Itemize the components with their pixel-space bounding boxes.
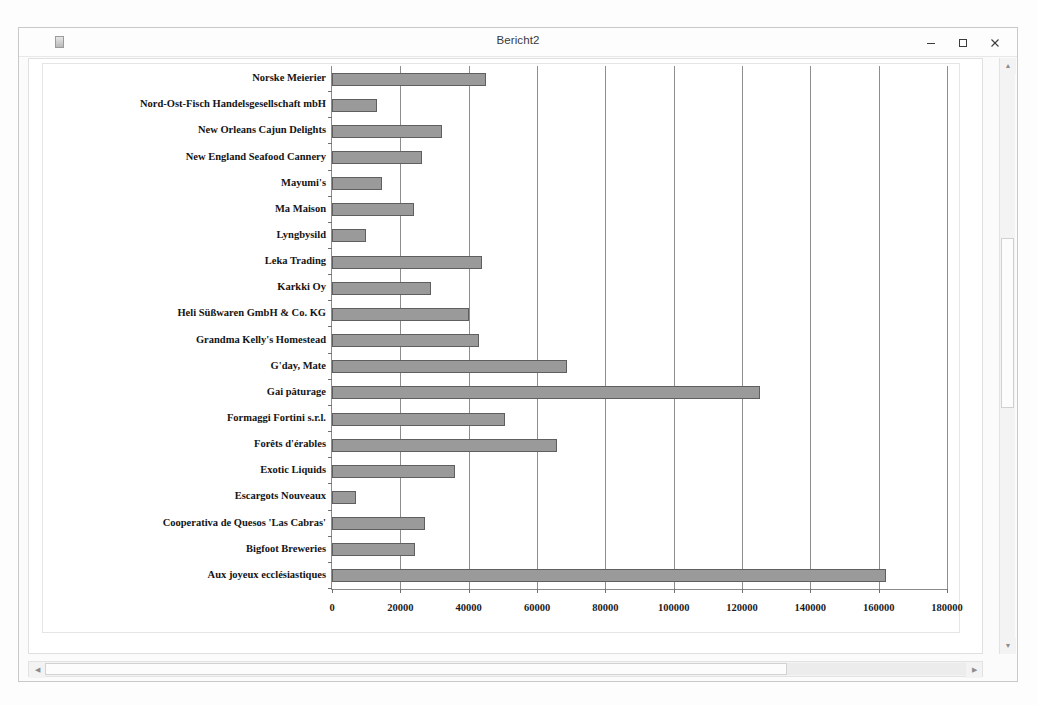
report-surface: 0200004000060000800001000001200001400001…: [28, 58, 983, 654]
chart-bar[interactable]: [332, 360, 567, 373]
chart-bar[interactable]: [332, 73, 486, 86]
chart-category-row: Ma Maison: [332, 197, 947, 223]
y-axis-tick: [328, 588, 332, 589]
x-axis-tick-label: 80000: [592, 602, 618, 613]
chart-bar[interactable]: [332, 125, 442, 138]
chart-category-row: Karkki Oy: [332, 275, 947, 301]
chart-category-row: Exotic Liquids: [332, 458, 947, 484]
gridline: [947, 66, 948, 589]
y-axis-category-label: Escargots Nouveaux: [235, 490, 326, 501]
chart-category-row: Cooperativa de Quesos 'Las Cabras': [332, 511, 947, 537]
close-icon[interactable]: [979, 30, 1011, 56]
chart-category-row: Escargots Nouveaux: [332, 484, 947, 510]
maximize-icon[interactable]: [947, 30, 979, 56]
chart-category-row: Bigfoot Breweries: [332, 537, 947, 563]
x-axis-tick-label: 140000: [795, 602, 827, 613]
x-axis-tick: [332, 589, 333, 593]
chart-category-row: Nord-Ost-Fisch Handelsgesellschaft mbH: [332, 92, 947, 118]
x-axis-tick-label: 180000: [931, 602, 963, 613]
x-axis-tick: [810, 589, 811, 593]
x-axis-tick: [469, 589, 470, 593]
y-axis-category-label: Cooperativa de Quesos 'Las Cabras': [163, 517, 326, 528]
y-axis-category-label: Exotic Liquids: [260, 464, 326, 475]
chart-category-row: Lyngbysild: [332, 223, 947, 249]
chart-bar[interactable]: [332, 229, 366, 242]
chart-category-row: Heli Süßwaren GmbH & Co. KG: [332, 301, 947, 327]
y-axis-category-label: Grandma Kelly's Homestead: [196, 334, 326, 345]
minimize-icon[interactable]: [915, 30, 947, 56]
x-axis-tick-label: 60000: [524, 602, 550, 613]
chart-bar[interactable]: [332, 491, 356, 504]
horizontal-scrollbar[interactable]: ◀ ▶: [28, 661, 983, 677]
vertical-scrollbar[interactable]: ▲ ▼: [999, 58, 1015, 654]
chart-bar[interactable]: [332, 543, 415, 556]
y-axis-category-label: G'day, Mate: [271, 360, 326, 371]
scroll-left-icon[interactable]: ◀: [29, 662, 45, 678]
chart-category-row: Forêts d'érables: [332, 432, 947, 458]
y-axis-category-label: Nord-Ost-Fisch Handelsgesellschaft mbH: [140, 98, 326, 109]
y-axis-category-label: Ma Maison: [275, 203, 326, 214]
y-axis-category-label: Leka Trading: [265, 255, 326, 266]
scroll-down-icon[interactable]: ▼: [1000, 638, 1016, 654]
y-axis-category-label: Gai pâturage: [267, 386, 326, 397]
x-axis-tick: [742, 589, 743, 593]
x-axis-tick: [537, 589, 538, 593]
chart-bar[interactable]: [332, 282, 431, 295]
scroll-right-icon[interactable]: ▶: [966, 662, 982, 678]
vertical-scrollbar-thumb[interactable]: [1001, 238, 1014, 408]
chart-bar[interactable]: [332, 413, 505, 426]
y-axis-category-label: Norske Meierier: [252, 72, 326, 83]
horizontal-scrollbar-thumb[interactable]: [45, 663, 787, 675]
horizontal-scrollbar-track[interactable]: [787, 663, 966, 675]
chart-category-row: Mayumi's: [332, 171, 947, 197]
x-axis-tick-label: 0: [329, 602, 334, 613]
chart-category-row: Leka Trading: [332, 249, 947, 275]
y-axis-category-label: Lyngbysild: [276, 229, 326, 240]
chart-category-row: Grandma Kelly's Homestead: [332, 328, 947, 354]
y-axis-category-label: Bigfoot Breweries: [246, 543, 326, 554]
chart-bar[interactable]: [332, 151, 422, 164]
x-axis-tick-label: 20000: [387, 602, 413, 613]
chart-category-row: New Orleans Cajun Delights: [332, 118, 947, 144]
chart-bar[interactable]: [332, 517, 425, 530]
chart-bar[interactable]: [332, 256, 482, 269]
y-axis-category-label: New Orleans Cajun Delights: [198, 124, 326, 135]
x-axis-tick: [400, 589, 401, 593]
y-axis-category-label: Mayumi's: [281, 177, 326, 188]
window-titlebar[interactable]: Bericht2: [19, 28, 1017, 57]
y-axis-category-label: Heli Süßwaren GmbH & Co. KG: [177, 307, 326, 318]
x-axis-tick: [674, 589, 675, 593]
y-axis-category-label: Forêts d'érables: [254, 438, 326, 449]
chart-bar[interactable]: [332, 177, 382, 190]
x-axis-tick: [879, 589, 880, 593]
chart-bar[interactable]: [332, 386, 760, 399]
y-axis-category-label: Formaggi Fortini s.r.l.: [227, 412, 326, 423]
y-axis-category-label: Aux joyeux ecclésiastiques: [208, 569, 326, 580]
x-axis-tick-label: 160000: [863, 602, 895, 613]
chart-bar[interactable]: [332, 439, 557, 452]
screen: Bericht2 020000400006: [0, 0, 1038, 705]
chart-bar[interactable]: [332, 203, 414, 216]
chart-category-row: Formaggi Fortini s.r.l.: [332, 406, 947, 432]
report-window: Bericht2 020000400006: [18, 27, 1018, 682]
chart-category-row: New England Seafood Cannery: [332, 144, 947, 170]
chart-category-row: G'day, Mate: [332, 354, 947, 380]
chart-category-row: Aux joyeux ecclésiastiques: [332, 563, 947, 589]
x-axis-tick: [605, 589, 606, 593]
chart-bar[interactable]: [332, 99, 377, 112]
y-axis-category-label: New England Seafood Cannery: [186, 151, 326, 162]
chart-bar[interactable]: [332, 465, 455, 478]
scroll-up-icon[interactable]: ▲: [1000, 58, 1016, 74]
x-axis-tick-label: 40000: [456, 602, 482, 613]
chart-bar[interactable]: [332, 569, 886, 582]
bar-chart-plot: 0200004000060000800001000001200001400001…: [331, 66, 947, 590]
window-title: Bericht2: [19, 34, 1017, 46]
chart-bar[interactable]: [332, 334, 479, 347]
x-axis-tick: [947, 589, 948, 593]
y-axis-category-label: Karkki Oy: [277, 281, 326, 292]
x-axis-tick-label: 120000: [726, 602, 758, 613]
x-axis-tick-label: 100000: [658, 602, 690, 613]
chart-bar[interactable]: [332, 308, 469, 321]
chart-category-row: Gai pâturage: [332, 380, 947, 406]
window-controls: [915, 28, 1011, 57]
